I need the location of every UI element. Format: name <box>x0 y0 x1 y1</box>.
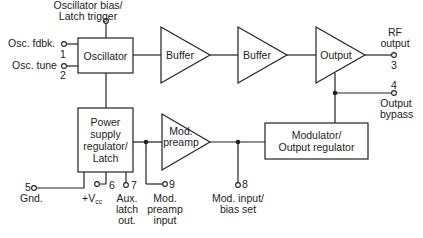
rf-line2: output <box>380 38 410 49</box>
power-line2: supply <box>90 128 120 140</box>
modulator-line1: Modulator/ <box>292 129 342 141</box>
oscillator-label: Oscillator <box>78 38 133 73</box>
pin7-number: 7 <box>131 180 137 191</box>
pin1-label: Osc. fdbk. <box>8 38 55 49</box>
bypass-line2: bypass <box>380 109 412 120</box>
bias-line2: Latch trigger <box>33 11 143 22</box>
power-line4: Latch <box>93 152 119 164</box>
bias-pin-label: Oscillator bias/ Latch trigger <box>33 0 143 22</box>
vcc-subscript: cc <box>95 198 102 205</box>
pin9-number: 9 <box>169 179 175 190</box>
pin5-terminal <box>32 186 37 191</box>
buffer2-label: Buffer <box>238 45 276 65</box>
power-line3: regulator/ <box>83 140 127 152</box>
pin2-number: 2 <box>60 70 66 81</box>
buffer1-label: Buffer <box>161 45 199 65</box>
output-label: Output <box>316 45 356 65</box>
power-supply-label: Power supply regulator/ Latch <box>78 110 133 170</box>
preamp-line2: preamp <box>163 137 199 148</box>
modulator-line2: Output regulator <box>279 141 355 153</box>
pin3-terminal <box>392 53 397 58</box>
pin6-number: 6 <box>109 180 115 191</box>
modulator-label: Modulator/ Output regulator <box>265 123 368 159</box>
p7-line3: out. <box>112 215 142 226</box>
rf-output-label: RF output <box>380 27 410 49</box>
power-line1: Power <box>91 116 121 128</box>
pin3-number: 3 <box>391 60 397 71</box>
pin5-label: Gnd. <box>20 193 43 204</box>
pin2-terminal <box>62 64 67 69</box>
pin2-label: Osc. tune <box>12 60 57 71</box>
pin6-terminal <box>95 182 100 187</box>
pin9-terminal <box>163 182 168 187</box>
pin1-number: 1 <box>60 49 66 60</box>
pin8-label: Mod. input/ bias set <box>208 193 268 215</box>
pin8-number: 8 <box>242 179 248 190</box>
p8-line2: bias set <box>208 204 268 215</box>
pin6-label: +Vcc <box>82 193 102 207</box>
pin7-label: Aux. latch out. <box>112 193 142 226</box>
pin4-terminal <box>392 91 397 96</box>
output-bypass-label: Output bypass <box>380 98 412 120</box>
pin9-label: Mod. preamp input <box>145 193 185 226</box>
pin1-terminal <box>62 42 67 47</box>
pin4-number: 4 <box>391 80 397 91</box>
p9-line3: input <box>145 215 185 226</box>
preamp-label: Mod. preamp <box>162 124 200 150</box>
vcc-text: +V <box>82 192 95 204</box>
pin8-terminal <box>236 183 241 188</box>
pin7-terminal <box>124 183 129 188</box>
